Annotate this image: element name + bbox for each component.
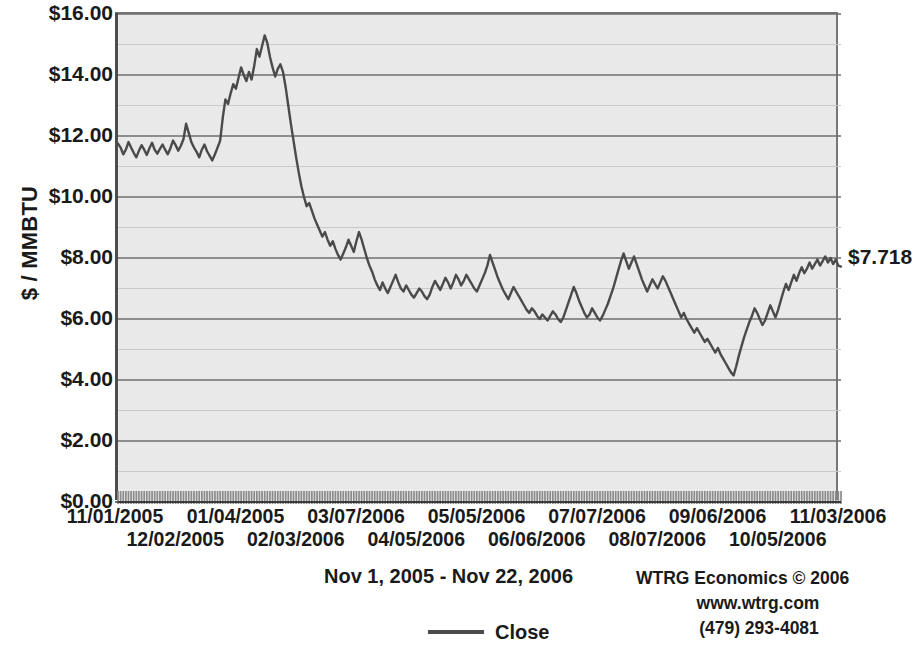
x-tick-label: 10/05/2006 [729,528,827,551]
x-axis-tick-labels: 11/01/200512/02/200501/04/200502/03/2006… [0,505,921,551]
y-tick-label: $10.00 [8,185,113,206]
chart-container: $ / MMBTU $16.00$14.00$12.00$10.00$8.00$… [0,0,921,652]
x-tick-label: 11/01/2005 [67,505,164,528]
y-tick-label: $14.00 [8,63,113,84]
x-tick-label: 02/03/2006 [247,528,345,551]
x-tick-label: 08/07/2006 [608,528,706,551]
period-label: Nov 1, 2005 - Nov 22, 2006 [324,565,573,588]
y-tick-label: $2.00 [8,429,113,450]
chart-legend: Close [428,622,549,642]
last-value-annotation: $7.718 [848,245,912,269]
x-tick-label: 09/06/2006 [669,505,767,528]
x-tick-label: 03/07/2006 [307,505,405,528]
x-tick-label: 04/05/2006 [367,528,465,551]
credit-line-website: www.wtrg.com [636,591,916,616]
x-tick-label: 11/03/2006 [790,505,887,528]
credit-block: WTRG Economics © 2006 www.wtrg.com (479)… [636,566,916,641]
legend-label-close: Close [495,622,549,642]
y-tick-label: $16.00 [8,2,113,23]
x-tick-label: 06/06/2006 [488,528,586,551]
y-tick-label: $4.00 [8,368,113,389]
y-tick-label: $12.00 [8,124,113,145]
y-tick-label: $6.00 [8,307,113,328]
x-tick-label: 12/02/2005 [126,528,224,551]
credit-line-phone: (479) 293-4081 [636,616,916,641]
legend-line-swatch [428,630,484,634]
y-axis-tick-labels: $16.00$14.00$12.00$10.00$8.00$6.00$4.00$… [0,0,113,520]
plot-area [115,12,838,500]
x-tick-label: 01/04/2005 [187,505,285,528]
y-tick-label: $8.00 [8,246,113,267]
credit-line-company: WTRG Economics © 2006 [636,566,916,591]
series-plot [115,12,843,504]
x-tick-label: 05/05/2006 [428,505,526,528]
x-tick-label: 07/07/2006 [548,505,646,528]
